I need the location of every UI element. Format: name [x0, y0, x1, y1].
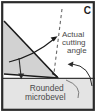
cutting-angle-line-3: angle	[67, 47, 87, 55]
rounded-microbevel-callout: Rounded microbevel	[28, 84, 66, 101]
cutting-angle-callout: Actual cutting angle	[62, 31, 87, 55]
microbevel-line-2: microbevel	[25, 93, 66, 102]
cutting-angle-diagram-panel-c: C Actual cutting angle Rounded microbeve…	[0, 0, 96, 112]
panel-letter-label: C	[84, 6, 91, 16]
